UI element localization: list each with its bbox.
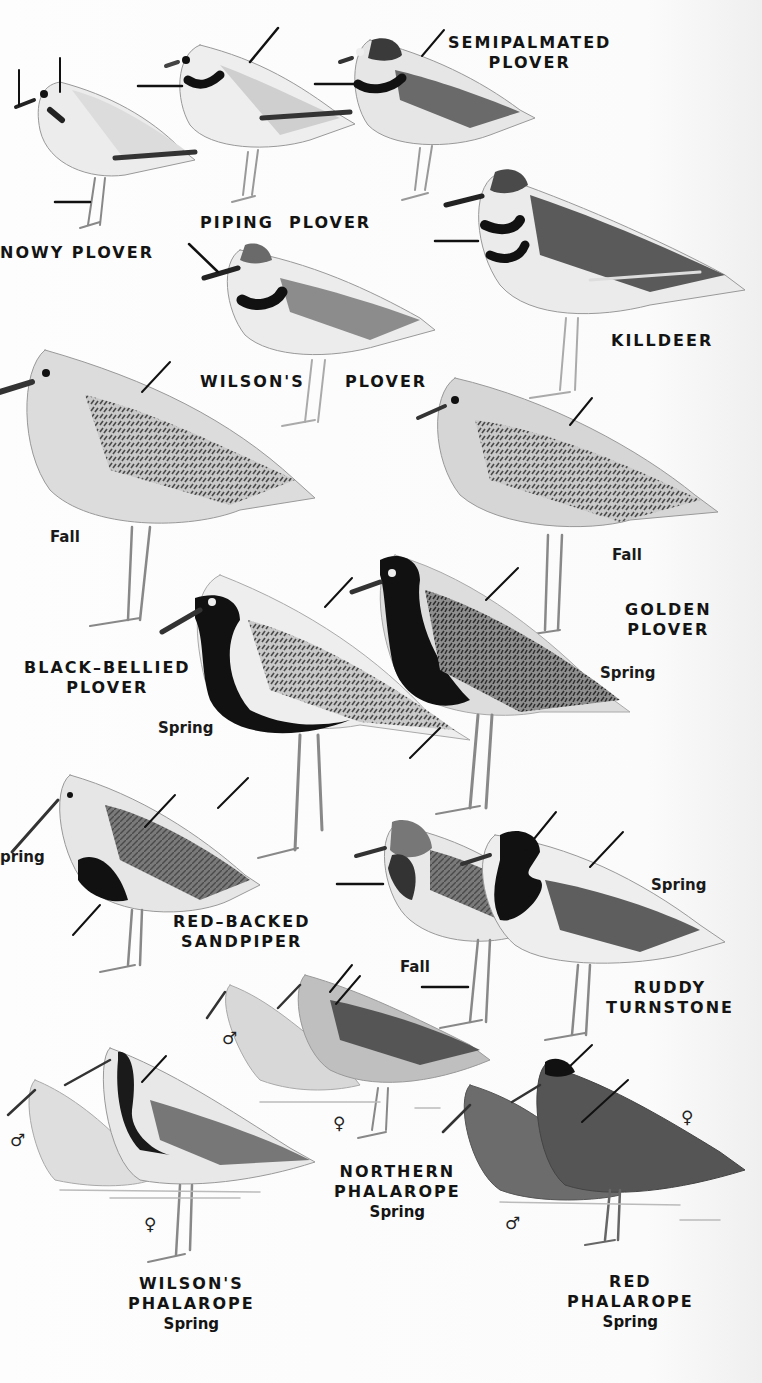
species-name: KILLDEER xyxy=(611,331,713,350)
male-symbol: ♂ xyxy=(505,1213,520,1233)
male-symbol: ♂ xyxy=(10,1130,25,1150)
label-killdeer: KILLDEER xyxy=(611,331,713,351)
male-symbol: ♂ xyxy=(222,1028,237,1048)
species-name: WILSON'S xyxy=(128,1274,255,1294)
species-name-line2: TURNSTONE xyxy=(606,998,734,1018)
season-turnstone-spring: Spring xyxy=(651,876,707,894)
label-semipalmated-plover: SEMIPALMATED PLOVER xyxy=(448,33,611,73)
species-name: WILSON'S xyxy=(200,372,305,391)
species-name: GOLDEN xyxy=(625,600,712,620)
label-red-backed-sandpiper: RED–BACKED SANDPIPER xyxy=(173,912,310,952)
species-name-line2: SANDPIPER xyxy=(173,932,310,952)
season-golden-fall: Fall xyxy=(612,546,642,564)
piping-plover-illustration xyxy=(138,28,355,202)
northern-phalarope-illustration xyxy=(207,965,490,1138)
killdeer-illustration xyxy=(435,169,745,398)
species-name: RED xyxy=(567,1272,694,1292)
female-symbol: ♀ xyxy=(681,1107,693,1127)
season-turnstone-fall: Fall xyxy=(400,958,430,976)
label-black-bellied-plover: BLACK–BELLIED PLOVER xyxy=(24,658,191,698)
species-name-line2: PLOVER xyxy=(345,372,427,391)
species-name-line2: PHALAROPE xyxy=(334,1182,461,1202)
species-name-line2: PHALAROPE xyxy=(567,1292,694,1312)
season-label: Spring xyxy=(334,1202,461,1222)
species-name-line2: PHALAROPE xyxy=(128,1294,255,1314)
species-name: RUDDY xyxy=(606,978,734,998)
female-symbol: ♀ xyxy=(144,1214,156,1234)
female-symbol: ♀ xyxy=(333,1113,345,1133)
species-name: RED–BACKED xyxy=(173,912,310,932)
label-golden-plover: GOLDEN PLOVER xyxy=(625,600,712,640)
species-name-line2: PLOVER xyxy=(625,620,712,640)
species-name: BLACK–BELLIED xyxy=(24,658,191,678)
species-name: NORTHERN xyxy=(334,1162,461,1182)
label-wilsons-plover-1: WILSON'S xyxy=(200,372,305,392)
season-label: Spring xyxy=(567,1312,694,1332)
species-name: PIPING PLOVER xyxy=(200,213,371,232)
species-name-line2: PLOVER xyxy=(448,53,611,73)
wilsons-plover-illustration xyxy=(189,243,435,426)
label-wilsons-phalarope: WILSON'S PHALAROPE Spring xyxy=(128,1274,255,1334)
species-name: NOWY PLOVER xyxy=(0,243,154,262)
field-guide-page: NOWY PLOVER PIPING PLOVER SEMIPALMATED P… xyxy=(0,0,762,1383)
label-red-phalarope: RED PHALAROPE Spring xyxy=(567,1272,694,1332)
season-bb-fall: Fall xyxy=(50,528,80,546)
snowy-plover-illustration xyxy=(16,58,195,228)
label-piping-plover: PIPING PLOVER xyxy=(200,213,371,233)
species-name: SEMIPALMATED xyxy=(448,33,611,53)
label-snowy-plover: NOWY PLOVER xyxy=(0,243,154,263)
red-phalarope-illustration xyxy=(443,1045,745,1245)
season-rb-spring: pring xyxy=(0,848,45,866)
season-label: Spring xyxy=(128,1314,255,1334)
label-ruddy-turnstone: RUDDY TURNSTONE xyxy=(606,978,734,1018)
season-golden-spring: Spring xyxy=(600,664,656,682)
species-name-line2: PLOVER xyxy=(24,678,191,698)
season-bb-spring: Spring xyxy=(158,719,214,737)
label-wilsons-plover-2: PLOVER xyxy=(345,372,427,392)
label-northern-phalarope: NORTHERN PHALAROPE Spring xyxy=(334,1162,461,1222)
